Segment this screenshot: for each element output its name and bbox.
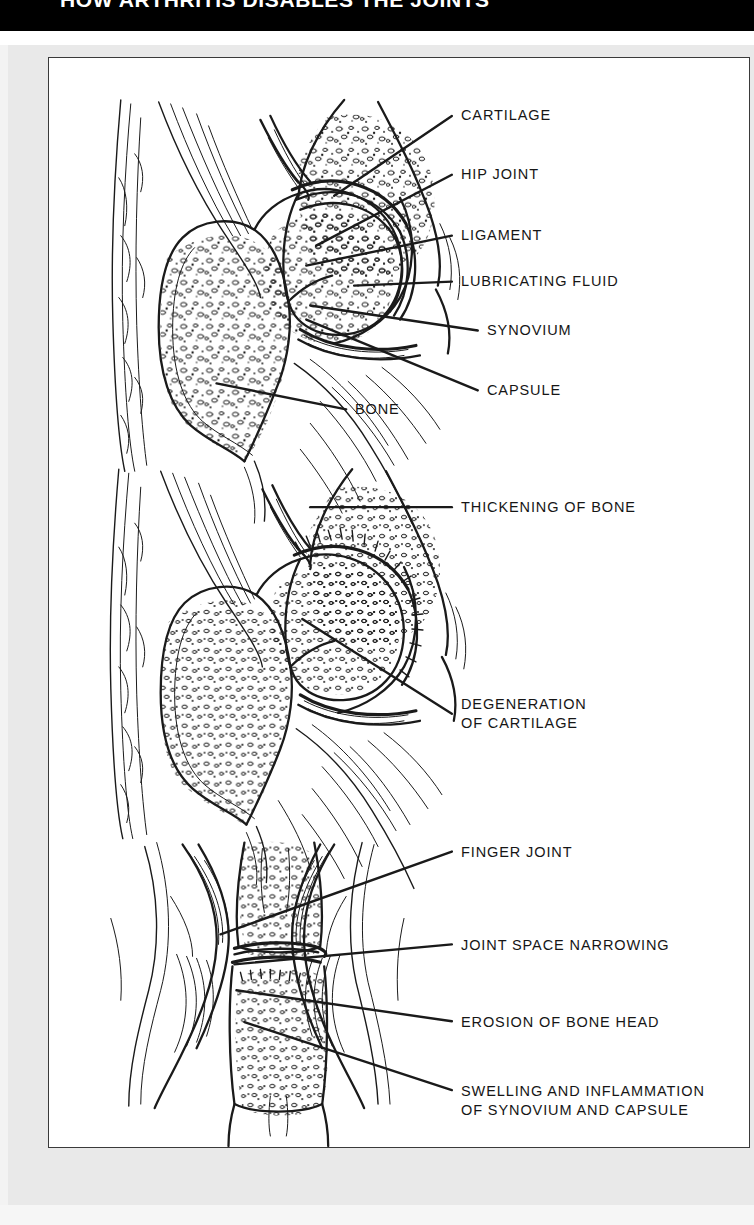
label-bone: BONE: [355, 400, 400, 418]
panel-osteoarthritic-hip-drawing: [110, 469, 465, 888]
label-joint-space-narrowing: JOINT SPACE NARROWING: [461, 936, 670, 954]
label-finger-joint: FINGER JOINT: [461, 843, 573, 861]
panel-finger-joint-drawing: [111, 837, 452, 1146]
banner-gutter: [0, 31, 754, 45]
label-lubricating-fluid: LUBRICATING FLUID: [461, 272, 619, 290]
banner-title: HOW ARTHRITIS DISABLES THE JOINTS: [60, 0, 490, 12]
panel-normal-hip-drawing: [112, 100, 477, 523]
label-erosion-of-bone-head: EROSION OF BONE HEAD: [461, 1013, 659, 1031]
page-banner: HOW ARTHRITIS DISABLES THE JOINTS: [0, 0, 754, 31]
label-thickening-of-bone: THICKENING OF BONE: [461, 498, 636, 516]
anatomy-illustration: .s{fill:none;stroke:#1a1a1a;stroke-linec…: [49, 58, 749, 1147]
mat-left-highlight: [0, 45, 8, 1225]
label-degeneration-of-cartilage: DEGENERATION OF CARTILAGE: [461, 695, 587, 733]
leader-capsule: [306, 320, 478, 391]
label-swelling-inflammation: SWELLING AND INFLAMMATION OF SYNOVIUM AN…: [461, 1082, 705, 1120]
label-ligament: LIGAMENT: [461, 226, 542, 244]
label-cartilage: CARTILAGE: [461, 106, 551, 124]
figure-panel: .s{fill:none;stroke:#1a1a1a;stroke-linec…: [48, 57, 750, 1148]
label-hip-joint: HIP JOINT: [461, 165, 539, 183]
label-capsule: CAPSULE: [487, 381, 561, 399]
label-synovium: SYNOVIUM: [487, 321, 572, 339]
mat-bottom-highlight: [0, 1205, 754, 1225]
